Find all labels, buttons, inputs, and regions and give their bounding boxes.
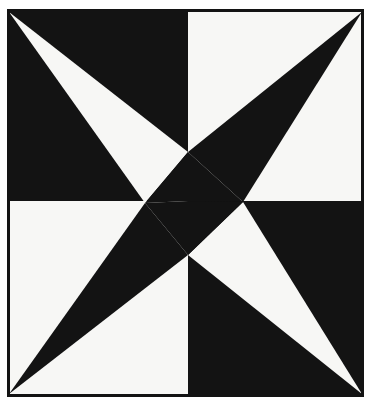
pinwheel-illusion-figure [0, 0, 372, 406]
figure-canvas [0, 0, 372, 406]
